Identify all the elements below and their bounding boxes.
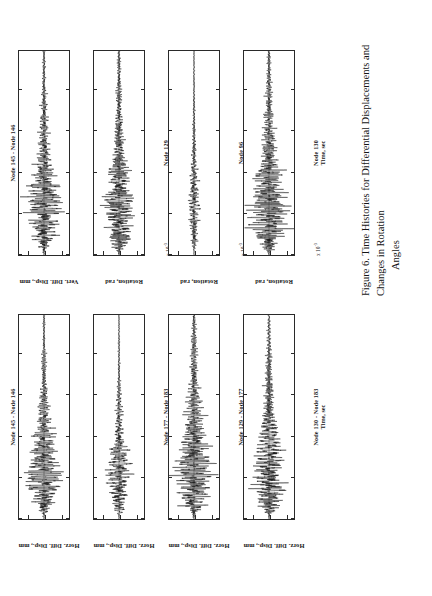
x-tick-mark bbox=[19, 353, 22, 354]
x-tick-mark bbox=[94, 130, 97, 131]
panel-column-right: Node 145 - Node 146100-1001020304050Vert… bbox=[18, 44, 318, 296]
x-tick-mark bbox=[169, 394, 172, 395]
panel-title: Node 130 bbox=[312, 50, 319, 256]
y-tick-mark bbox=[270, 516, 271, 520]
y-tick-mark bbox=[212, 252, 213, 256]
x-tick-mark bbox=[19, 477, 22, 478]
y-tick-mark bbox=[287, 252, 288, 256]
x-tick-mark bbox=[244, 172, 247, 173]
x-tick-mark-top bbox=[66, 436, 69, 437]
x-tick-mark bbox=[94, 518, 97, 519]
x-tick-mark bbox=[19, 436, 22, 437]
x-tick-mark bbox=[244, 436, 247, 437]
x-tick-mark-top bbox=[141, 477, 144, 478]
x-tick-mark bbox=[94, 394, 97, 395]
x-tick-mark bbox=[169, 89, 172, 90]
x-tick-mark-top bbox=[141, 518, 144, 519]
x-tick-mark bbox=[94, 172, 97, 173]
waveform-svg bbox=[244, 315, 294, 519]
x-tick-mark-top bbox=[291, 89, 294, 90]
y-tick-mark bbox=[45, 516, 46, 520]
y-tick-mark bbox=[212, 516, 213, 520]
x-tick-mark bbox=[94, 89, 97, 90]
y-tick-mark bbox=[178, 516, 179, 520]
x-tick-mark-top bbox=[66, 172, 69, 173]
plot-panel-panel-r3: Node 9610-101020304050Rotation, radx 10-… bbox=[168, 44, 230, 296]
x-tick-mark bbox=[169, 213, 172, 214]
x-tick-mark-top bbox=[216, 353, 219, 354]
x-tick-mark-top bbox=[66, 89, 69, 90]
x-axis-label: Time, sec bbox=[319, 314, 326, 520]
x-tick-mark-top bbox=[291, 518, 294, 519]
x-tick-mark-top bbox=[216, 518, 219, 519]
plot-panel-panel-l4: Node 130 - Node 183100-1001020304050Horz… bbox=[243, 308, 305, 560]
x-tick-mark-top bbox=[216, 130, 219, 131]
waveform-svg bbox=[94, 51, 144, 255]
x-tick-mark-top bbox=[291, 477, 294, 478]
y-tick-mark bbox=[178, 252, 179, 256]
x-tick-mark-top bbox=[141, 394, 144, 395]
x-tick-mark bbox=[169, 254, 172, 255]
waveform-svg bbox=[169, 51, 219, 255]
waveform-svg bbox=[19, 51, 69, 255]
x-tick-mark-top bbox=[141, 172, 144, 173]
y-tick-mark bbox=[120, 516, 121, 520]
x-tick-mark bbox=[169, 477, 172, 478]
panel-title: Node 130 - Node 183 bbox=[312, 314, 319, 520]
x-tick-mark bbox=[244, 213, 247, 214]
x-tick-mark-top bbox=[66, 477, 69, 478]
waveform-svg bbox=[244, 51, 294, 255]
x-tick-mark bbox=[244, 353, 247, 354]
y-tick-mark bbox=[45, 252, 46, 256]
plot-panel-panel-r4: Node 13010-101020304050Rotation, radx 10… bbox=[243, 44, 305, 296]
y-tick-mark bbox=[28, 516, 29, 520]
x-tick-mark-top bbox=[216, 394, 219, 395]
x-tick-mark-top bbox=[216, 436, 219, 437]
x-tick-mark bbox=[169, 130, 172, 131]
x-tick-mark-top bbox=[216, 89, 219, 90]
plot-area: 100-1001020304050 bbox=[18, 314, 70, 520]
y-tick-mark bbox=[270, 252, 271, 256]
y-tick-mark bbox=[137, 516, 138, 520]
x-tick-mark-top bbox=[66, 394, 69, 395]
x-tick-mark-top bbox=[291, 254, 294, 255]
plot-area: 100-1001020304050 bbox=[168, 314, 220, 520]
caption-line-2: Angles bbox=[388, 44, 403, 296]
y-tick-mark bbox=[28, 252, 29, 256]
y-tick-mark bbox=[195, 516, 196, 520]
panel-column-left: Node 145 - Node 146100-1001020304050Horz… bbox=[18, 308, 318, 560]
y-tick-mark bbox=[137, 252, 138, 256]
y-tick-mark bbox=[62, 516, 63, 520]
y-tick-mark bbox=[287, 516, 288, 520]
plot-area: 10-101020304050 bbox=[168, 50, 220, 256]
panel-title: Node 145 - Node 146 bbox=[9, 314, 16, 520]
x-tick-mark-top bbox=[141, 130, 144, 131]
x-tick-mark bbox=[94, 477, 97, 478]
x-tick-mark-top bbox=[216, 254, 219, 255]
x-tick-mark-top bbox=[66, 213, 69, 214]
plot-panel-panel-r2: Node 12910-101020304050Rotation, radx 10… bbox=[93, 44, 155, 296]
x-tick-mark bbox=[244, 254, 247, 255]
x-tick-mark bbox=[19, 213, 22, 214]
x-tick-mark bbox=[19, 130, 22, 131]
plot-area: 10-101020304050 bbox=[93, 50, 145, 256]
caption-line-1: Figure 6. Time Histories for Differentia… bbox=[360, 45, 386, 296]
y-tick-mark bbox=[195, 252, 196, 256]
plot-panel-panel-r1: Node 145 - Node 146100-1001020304050Vert… bbox=[18, 44, 80, 296]
x-tick-mark-top bbox=[66, 518, 69, 519]
x-axis-label: Time, sec bbox=[319, 50, 326, 256]
x-tick-mark-top bbox=[141, 89, 144, 90]
x-tick-mark bbox=[94, 213, 97, 214]
plot-area: 100-1001020304050 bbox=[243, 314, 295, 520]
x-tick-mark-top bbox=[216, 213, 219, 214]
x-tick-mark bbox=[19, 172, 22, 173]
x-tick-mark-top bbox=[66, 130, 69, 131]
x-tick-mark bbox=[169, 172, 172, 173]
x-tick-mark-top bbox=[141, 213, 144, 214]
plot-panel-panel-l1: Node 145 - Node 146100-1001020304050Horz… bbox=[18, 308, 80, 560]
x-tick-mark-top bbox=[141, 254, 144, 255]
x-tick-mark-top bbox=[216, 172, 219, 173]
x-tick-mark bbox=[19, 89, 22, 90]
x-tick-mark-top bbox=[141, 436, 144, 437]
x-tick-mark-top bbox=[66, 254, 69, 255]
